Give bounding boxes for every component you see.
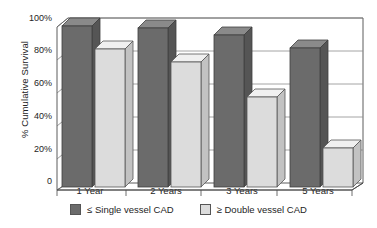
bar-3-years-single-vessel	[214, 27, 252, 187]
legend-swatch-single-vessel	[70, 204, 81, 215]
bar-2-years-double-vessel	[171, 54, 209, 187]
chart-legend: ≤ Single vessel CAD ≥ Double vessel CAD	[0, 204, 377, 215]
legend-item-double-vessel: ≥ Double vessel CAD	[200, 204, 307, 215]
legend-label-single-vessel: ≤ Single vessel CAD	[87, 204, 174, 215]
legend-item-single-vessel: ≤ Single vessel CAD	[70, 204, 174, 215]
bar-5-years-single-vessel	[290, 40, 328, 187]
plot-area	[0, 0, 377, 228]
legend-label-double-vessel: ≥ Double vessel CAD	[217, 204, 307, 215]
bar-1-year-double-vessel	[95, 41, 133, 187]
legend-swatch-double-vessel	[200, 204, 211, 215]
bar-3-years-double-vessel	[247, 89, 285, 187]
bar-chart-figure: % Cumulative Survival 100% 80% 60% 40% 2…	[0, 0, 377, 228]
bar-5-years-double-vessel	[323, 140, 361, 187]
bar-1-year-single-vessel	[62, 18, 100, 187]
bar-2-years-single-vessel	[138, 20, 176, 187]
